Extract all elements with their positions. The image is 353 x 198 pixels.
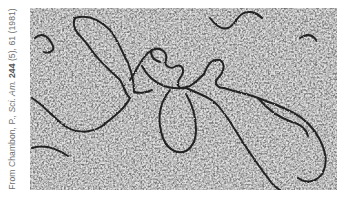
micrograph-image — [30, 8, 337, 190]
credit-volume: 244 — [7, 64, 17, 79]
credit-line: From Chambon, P., Sci. Am. 244 (5), 61 (… — [0, 0, 24, 198]
credit-journal: Sci. Am. — [7, 80, 17, 112]
grain-background — [30, 8, 337, 190]
credit-text: From Chambon, P., Sci. Am. 244 (5), 61 (… — [7, 8, 17, 189]
credit-prefix: From Chambon, P., — [7, 113, 17, 190]
credit-rest: (5), 61 (1981) — [7, 8, 17, 63]
electron-micrograph — [30, 8, 337, 190]
